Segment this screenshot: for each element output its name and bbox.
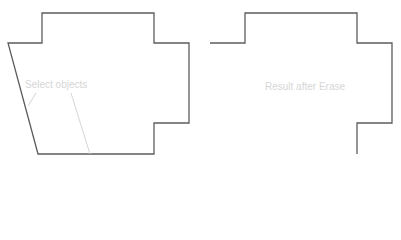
select-objects-label: Select objects [25, 79, 87, 91]
result-after-erase-label: Result after Erase [265, 81, 345, 93]
leader-line-to-slanted-edge [28, 93, 36, 106]
leader-line-to-bottom-edge [71, 93, 90, 154]
leader-lines [28, 93, 90, 154]
